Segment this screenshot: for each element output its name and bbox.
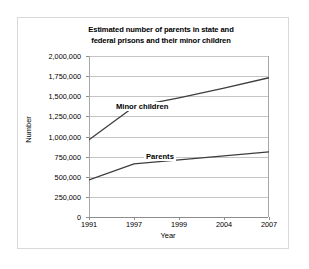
y-axis-tick-mark [86,177,89,178]
series-label-minor-children: Minor children [114,102,170,111]
y-axis-tick-mark [86,96,89,97]
chart-title-line-1: Estimated number of parents in state and [56,25,266,36]
x-axis-tick-mark [269,217,270,220]
y-axis-tick-mark [86,197,89,198]
x-axis-tick-label: 2004 [204,220,244,229]
x-axis-tick-mark [179,217,180,220]
y-axis-tick-label: 1,500,000 [27,92,81,101]
y-axis-tick-mark [86,56,89,57]
y-axis-tick-label: 1,250,000 [27,112,81,121]
y-axis-tick-label: 1,000,000 [27,132,81,141]
y-axis-title: Number [24,100,33,160]
chart-title: Estimated number of parents in state and… [56,25,266,46]
x-axis-tick-label: 2007 [249,220,289,229]
chart-title-line-2: federal prisons and their minor children [56,36,266,47]
x-axis-tick-mark [134,217,135,220]
y-axis-tick-label: 250,000 [27,192,81,201]
y-axis-tick-label: 750,000 [27,152,81,161]
x-axis-tick-label: 1999 [159,220,199,229]
series-line-parents [89,152,269,180]
y-axis-tick-mark [86,76,89,77]
series-lines [89,56,269,217]
x-axis-tick-label: 1997 [114,220,154,229]
x-axis-tick-mark [224,217,225,220]
y-axis-tick-label: 500,000 [27,172,81,181]
x-axis-title: Year [68,231,268,240]
y-axis-tick-mark [86,116,89,117]
y-axis-tick-mark [86,157,89,158]
x-axis-tick-mark [89,217,90,220]
x-axis-tick-label: 1991 [69,220,109,229]
y-axis-tick-label: 1,750,000 [27,72,81,81]
y-axis-tick-mark [86,137,89,138]
chart-figure-frame: Estimated number of parents in state and… [17,17,289,249]
y-axis-tick-label: 2,000,000 [27,52,81,61]
series-label-parents: Parents [144,152,176,161]
